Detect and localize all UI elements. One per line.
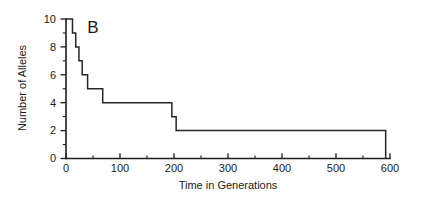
x-tick-label-200: 200 xyxy=(165,162,183,174)
y-tick-label-6: 6 xyxy=(50,69,56,81)
x-tick-label-300: 300 xyxy=(219,162,237,174)
y-tick-label-4: 4 xyxy=(50,97,56,109)
y-tick-label-2: 2 xyxy=(50,124,56,136)
x-tick-label-500: 500 xyxy=(327,162,345,174)
x-tick-label-400: 400 xyxy=(273,162,291,174)
x-tick-label-600: 600 xyxy=(381,162,399,174)
y-tick-label-8: 8 xyxy=(50,41,56,53)
panel-label: B xyxy=(87,18,98,37)
y-tick-label-0: 0 xyxy=(50,152,56,164)
y-tick-label-10: 10 xyxy=(44,13,56,25)
data-series-line xyxy=(66,19,386,159)
x-tick-label-0: 0 xyxy=(63,162,69,174)
y-axis-title: Number of Alleles xyxy=(16,44,28,131)
chart-canvas: 0 2 4 6 8 10 0 100 200 300 400 500 600 T… xyxy=(0,0,421,204)
x-axis-title: Time in Generations xyxy=(179,179,278,191)
x-tick-label-100: 100 xyxy=(111,162,129,174)
figure-panel-b: 0 2 4 6 8 10 0 100 200 300 400 500 600 T… xyxy=(0,0,421,204)
